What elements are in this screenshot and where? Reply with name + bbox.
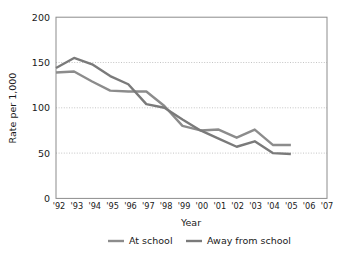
y-tick-150: 150	[32, 57, 50, 68]
y-tick-200: 200	[32, 12, 50, 23]
x-tick-04: '04	[267, 201, 280, 211]
chart-figure: 200 150 100 50 0 Rate per 1,000 '92 '93 …	[0, 0, 362, 257]
y-tick-100: 100	[32, 102, 50, 113]
x-tick-95: '95	[106, 201, 119, 211]
x-tick-96: '96	[124, 201, 137, 211]
y-tick-0: 0	[44, 193, 50, 204]
x-tick-94: '94	[88, 201, 101, 211]
y-axis-title: Rate per 1,000	[7, 73, 18, 144]
x-tick-00: '00	[196, 201, 209, 211]
x-tick-02: '02	[231, 201, 244, 211]
x-tick-06: '06	[303, 201, 316, 211]
x-tick-99: '99	[178, 201, 191, 211]
legend-label-away-from-school: Away from school	[207, 235, 291, 246]
x-tick-93: '93	[71, 201, 84, 211]
x-tick-01: '01	[213, 201, 226, 211]
x-tick-05: '05	[285, 201, 298, 211]
x-tick-98: '98	[160, 201, 173, 211]
y-tick-50: 50	[38, 148, 50, 159]
x-tick-92: '92	[53, 201, 66, 211]
x-tick-07: '07	[321, 201, 334, 211]
legend-label-at-school: At school	[129, 235, 173, 246]
x-axis-title: Year	[180, 217, 201, 228]
x-tick-97: '97	[142, 201, 155, 211]
x-tick-03: '03	[249, 201, 262, 211]
line-chart-svg: 200 150 100 50 0 Rate per 1,000 '92 '93 …	[0, 0, 362, 257]
